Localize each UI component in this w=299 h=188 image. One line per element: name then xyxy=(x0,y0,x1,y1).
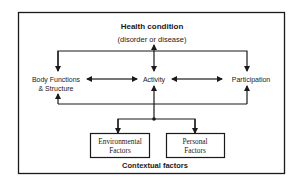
activity-label: Activity xyxy=(143,76,166,84)
personal-label: Personal xyxy=(182,137,207,146)
personal-factors-label: Factors xyxy=(184,146,206,155)
icf-diagram: Health condition (disorder or disease) B… xyxy=(0,0,299,188)
health-condition-title: Health condition xyxy=(121,22,184,31)
bottom-connector xyxy=(58,86,247,133)
body-structure-label: & Structure xyxy=(38,85,73,92)
contextual-factors-title: Contextual factors xyxy=(122,161,188,170)
participation-label: Participation xyxy=(232,76,271,84)
top-connector xyxy=(58,45,247,71)
health-condition-subtitle: (disorder or disease) xyxy=(118,35,187,44)
environmental-label: Environmental xyxy=(98,137,141,146)
environmental-factors-label: Factors xyxy=(109,146,131,155)
body-functions-label: Body Functions xyxy=(32,76,81,84)
junction-dot xyxy=(152,117,156,121)
